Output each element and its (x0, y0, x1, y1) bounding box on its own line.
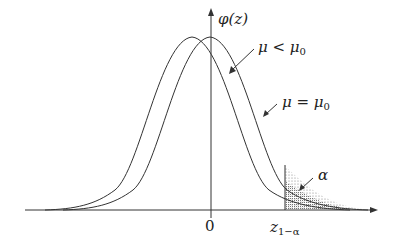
y-axis-label: φ(z) (218, 12, 248, 27)
label-null-curve: μ = μ0 (282, 95, 330, 112)
alpha-label: α (318, 168, 328, 183)
critical-value-subscript: 1−α (278, 226, 300, 237)
x-tick-zero: 0 (205, 219, 215, 234)
label-shifted-subscript: 0 (300, 46, 306, 57)
label-shifted-curve: μ < μ0 (258, 40, 306, 57)
diagram-canvas (0, 0, 396, 242)
critical-value-z: z (270, 218, 278, 236)
label-null-subscript: 0 (324, 101, 330, 112)
y-axis (208, 8, 214, 218)
critical-value-label: z1−α (270, 220, 299, 237)
label-shifted-text: μ < μ (258, 38, 300, 56)
label-null-text: μ = μ (282, 93, 324, 111)
arrow-null-label (263, 104, 277, 117)
